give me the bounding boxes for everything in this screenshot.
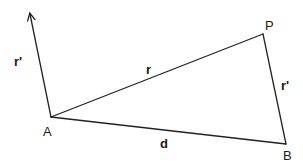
vector-r-prime-label: r' (14, 54, 22, 69)
vector-r-prime-arrow (30, 14, 51, 117)
edge-a-p (51, 34, 263, 117)
edge-r-prime-label: r' (281, 78, 289, 93)
edge-a-b (51, 117, 286, 144)
vertex-p-label: P (265, 18, 274, 33)
vertex-a-label: A (43, 124, 52, 139)
vector-triangle-diagram: r' A r d P r' B (0, 0, 303, 166)
vertex-b-label: B (283, 148, 292, 163)
edge-d-label: d (160, 136, 168, 151)
edge-r-label: r (146, 62, 151, 77)
